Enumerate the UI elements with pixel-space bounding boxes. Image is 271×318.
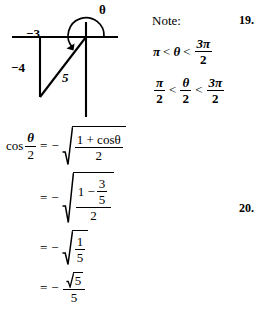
line1-radicand-numerator: 1 + cosθ bbox=[75, 133, 123, 148]
ineq2-middle-denominator: 2 bbox=[181, 91, 192, 105]
line4-radical: 5 bbox=[66, 272, 84, 288]
line1-equals: = bbox=[38, 138, 49, 154]
line2-inner-numerator: 3 bbox=[97, 177, 108, 192]
ineq1-right-fraction: 3π 2 bbox=[195, 37, 213, 67]
ineq2-middle-fraction: θ 2 bbox=[180, 76, 191, 106]
diagram-label-hypotenuse: 5 bbox=[62, 71, 69, 84]
derivation-line-3: = − 1 5 bbox=[38, 230, 156, 266]
line3-radicand: 1 5 bbox=[72, 230, 89, 266]
line2-negative-sign: − bbox=[49, 190, 60, 206]
line2-outer-denominator: 2 bbox=[88, 208, 99, 222]
line2-inner-denominator: 5 bbox=[97, 192, 108, 206]
ineq2-middle-numerator: θ bbox=[180, 76, 191, 91]
ineq2-left-denominator: 2 bbox=[154, 91, 165, 105]
line1-lhs-numerator: θ bbox=[25, 131, 36, 146]
line2-radicand: 1 − 3 5 2 bbox=[73, 172, 115, 224]
ineq2-right-fraction: 3π 2 bbox=[207, 76, 225, 106]
ineq2-relation-2: < bbox=[193, 82, 204, 98]
ineq2-right-numerator: 3π bbox=[207, 76, 225, 91]
ineq1-relation-2: < bbox=[181, 44, 192, 60]
line1-radicand-fraction: 1 + cosθ 2 bbox=[75, 133, 123, 163]
note-title: Note: bbox=[152, 14, 244, 27]
line2-one-minus: 1 − bbox=[78, 185, 95, 198]
ineq2-right-denominator: 2 bbox=[210, 91, 221, 105]
line1-radicand-denominator: 2 bbox=[93, 148, 104, 162]
line3-fraction: 1 5 bbox=[75, 235, 86, 265]
line1-lhs-denominator: 2 bbox=[25, 147, 36, 161]
diagram-label-x-leg: −3 bbox=[26, 27, 40, 40]
line4-equals: = bbox=[38, 280, 49, 296]
terminal-ray bbox=[40, 37, 86, 97]
line2-inner-fraction: 3 5 bbox=[97, 177, 108, 207]
derivation-line-4: = − 5 5 bbox=[38, 272, 156, 304]
line1-cos-function: cos bbox=[6, 138, 23, 154]
ineq1-left: π bbox=[152, 44, 161, 60]
line3-radical: 1 5 bbox=[62, 230, 89, 266]
worksheet-page: −3 −4 5 θ Note: π < θ < 3π 2 π 2 < θ bbox=[0, 0, 271, 318]
note-inequality-theta: π < θ < 3π 2 bbox=[152, 37, 244, 67]
ineq2-left-numerator: π bbox=[154, 76, 165, 91]
derivation-line-2: = − 1 − 3 5 bbox=[38, 172, 156, 224]
ineq1-relation-1: < bbox=[161, 44, 172, 60]
line3-negative-sign: − bbox=[49, 240, 60, 256]
line3-denominator: 5 bbox=[75, 250, 86, 264]
ineq2-relation-1: < bbox=[167, 82, 178, 98]
line3-numerator: 1 bbox=[75, 235, 86, 250]
line1-radical: 1 + cosθ 2 bbox=[62, 126, 126, 166]
line4-denominator: 5 bbox=[69, 290, 80, 304]
line4-negative-sign: − bbox=[49, 280, 60, 296]
line2-radical: 1 − 3 5 2 bbox=[62, 172, 115, 224]
ineq1-middle: θ bbox=[172, 44, 181, 60]
note-block: Note: π < θ < 3π 2 π 2 < θ 2 < 3 bbox=[152, 14, 244, 105]
ineq1-right-denominator: 2 bbox=[198, 52, 209, 66]
line4-radicand: 5 bbox=[73, 272, 84, 288]
ineq1-right-numerator: 3π bbox=[195, 37, 213, 52]
line4-numerator: 5 bbox=[63, 272, 86, 290]
derivation-block: cos θ 2 = − 1 + cosθ 2 bbox=[6, 126, 156, 304]
problem-number-19: 19. bbox=[239, 14, 254, 26]
note-inequality-half-theta: π 2 < θ 2 < 3π 2 bbox=[152, 76, 244, 106]
angle-in-standard-position-diagram: −3 −4 5 θ bbox=[0, 0, 150, 122]
diagram-label-angle-theta: θ bbox=[99, 3, 106, 16]
problem-number-20: 20. bbox=[239, 202, 254, 214]
diagram-label-y-leg: −4 bbox=[11, 61, 25, 74]
line1-radicand: 1 + cosθ 2 bbox=[72, 126, 126, 166]
line4-fraction: 5 5 bbox=[63, 272, 86, 304]
line3-equals: = bbox=[38, 240, 49, 256]
line2-outer-numerator: 1 − 3 5 bbox=[76, 177, 112, 209]
line1-negative-sign: − bbox=[49, 138, 60, 154]
derivation-line-1: cos θ 2 = − 1 + cosθ 2 bbox=[6, 126, 156, 166]
line2-equals: = bbox=[38, 190, 49, 206]
ineq2-left-fraction: π 2 bbox=[154, 76, 165, 106]
line2-outer-fraction: 1 − 3 5 2 bbox=[76, 177, 112, 223]
line1-lhs-fraction: θ 2 bbox=[25, 131, 36, 161]
